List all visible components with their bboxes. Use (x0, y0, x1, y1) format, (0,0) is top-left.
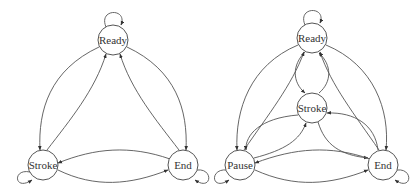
node-ready: Ready (297, 23, 327, 53)
edge-end-ready (320, 52, 379, 150)
edge-end-ready (120, 54, 179, 150)
diagram-four-state: Ready Stroke Pause End (214, 10, 408, 183)
edge-ready-stroke (40, 47, 99, 150)
edge-end-self (195, 170, 209, 183)
edge-end-stroke (327, 113, 378, 150)
edge-end-stroke (58, 150, 170, 163)
edge-stroke-end (58, 170, 168, 182)
node-end: End (368, 150, 398, 180)
edge-stroke-ready (319, 53, 329, 93)
edge-ready-end (326, 45, 387, 150)
edge-end-self (395, 170, 409, 183)
node-label: Ready (99, 34, 128, 46)
node-pause: Pause (225, 150, 255, 180)
node-label: Stroke (298, 102, 327, 114)
edge-stroke-self (17, 172, 32, 184)
edge-stroke-end (318, 122, 368, 158)
node-label: End (374, 159, 392, 171)
diagram-three-state: Ready Stroke End (17, 12, 208, 183)
node-label: Ready (298, 32, 327, 44)
edge-ready-pause (237, 45, 298, 150)
edge-pause-end (255, 170, 368, 182)
node-stroke: Stroke (297, 93, 327, 123)
node-ready: Ready (98, 25, 128, 55)
node-stroke: Stroke (28, 150, 58, 180)
state-diagrams: Ready Stroke End (0, 0, 419, 195)
edge-pause-ready (244, 52, 304, 150)
edge-pause-stroke (254, 123, 306, 158)
node-label: Pause (227, 159, 253, 171)
edge-stroke-pause (246, 115, 298, 150)
node-end: End (168, 150, 198, 180)
node-label: Stroke (29, 159, 58, 171)
node-label: End (174, 159, 192, 171)
edge-ready-stroke (295, 52, 305, 93)
edge-ready-end (127, 47, 186, 150)
edge-stroke-ready (47, 54, 106, 150)
